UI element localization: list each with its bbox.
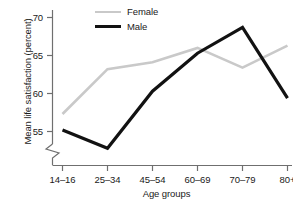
- x-tick-label-80-plus: 80+: [266, 174, 294, 185]
- y-tick-marks: [47, 18, 53, 132]
- legend-swatch-male-icon: [95, 25, 121, 28]
- x-axis-title: Age groups: [40, 188, 293, 199]
- x-tick-label-60-69: 60–69: [176, 174, 220, 185]
- y-axis-break-icon: [46, 144, 59, 165]
- x-tick-label-70-79: 70–79: [221, 174, 265, 185]
- legend-item-female: Female: [95, 6, 158, 17]
- x-tick-marks: [63, 166, 288, 172]
- y-axis-title: Mean life satisfaction (percent): [22, 6, 33, 158]
- x-tick-label-14-16: 14–16: [41, 174, 85, 185]
- line-chart-figure: 70 65 60 55 Mean life satisfaction (perc…: [0, 0, 293, 208]
- legend-swatch-female-icon: [95, 11, 121, 13]
- x-tick-label-25-34: 25–34: [86, 174, 130, 185]
- series-line-female: [63, 46, 288, 114]
- data-series-layer: [63, 27, 288, 148]
- legend-label-female: Female: [127, 6, 158, 17]
- legend-item-male: Male: [95, 21, 147, 32]
- legend-label-male: Male: [127, 21, 147, 32]
- x-tick-label-45-54: 45–54: [131, 174, 175, 185]
- series-line-male: [63, 27, 288, 148]
